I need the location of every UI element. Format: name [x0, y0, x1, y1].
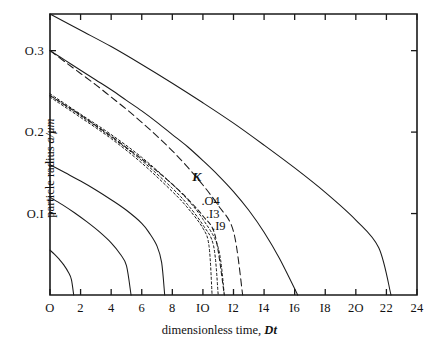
x-axis-title-italic: Dt [264, 323, 277, 337]
x-tick-label-2: 2 [77, 301, 84, 316]
y-tick-label-0-1: O.I [27, 206, 44, 221]
curve-solid-outer-22 [50, 14, 391, 295]
k-legend-title: K [192, 169, 201, 185]
k-value-19: .I9 [212, 219, 226, 234]
axis-ticks [50, 14, 417, 295]
y-axis-title-italic: a/μm [43, 118, 57, 143]
x-tick-label-4: 4 [108, 301, 115, 316]
x-tick-label-24: 24 [410, 301, 423, 316]
figure-root: O2468IOI2I4I6I82O2224 O.IO.2O.3 K.O4.I3.… [0, 0, 439, 341]
curve-solid-from-0.055 [50, 250, 74, 295]
curve-dashed-from-0.245 [50, 95, 224, 295]
y-tick-label-0-3: O.3 [25, 43, 44, 58]
curve-dotted-K-0.04 [50, 97, 212, 295]
chart-plot-area [0, 0, 439, 341]
curve-dotted-K-0.19 [50, 94, 224, 295]
curve-series-group [50, 14, 391, 295]
x-tick-label-18: I8 [320, 301, 331, 316]
y-axis-title: particle radius a/μm [43, 118, 58, 217]
curve-longdash-from-0.3 [50, 51, 243, 295]
x-axis-title-plain: dimensionless time, [162, 323, 264, 337]
y-axis-title-plain: particle radius [43, 143, 57, 217]
x-tick-label-8: 8 [169, 301, 176, 316]
x-tick-label-0: O [45, 301, 54, 316]
x-tick-label-6: 6 [138, 301, 145, 316]
curve-dotted-K-0.13 [50, 95, 218, 295]
x-tick-label-14: I4 [259, 301, 270, 316]
curve-solid-from-0.3 [50, 51, 298, 295]
axes-frame [50, 14, 417, 295]
x-tick-label-12: I2 [228, 301, 239, 316]
curve-solid-from-0.12 [50, 197, 131, 295]
x-tick-label-22: 22 [380, 301, 393, 316]
curve-solid-from-0.16 [50, 165, 165, 295]
x-axis-title: dimensionless time, Dt [162, 323, 277, 338]
x-tick-label-16: I6 [289, 301, 300, 316]
x-tick-label-10: IO [196, 301, 210, 316]
x-tick-label-20: 2O [348, 301, 364, 316]
y-tick-label-0-2: O.2 [25, 125, 44, 140]
